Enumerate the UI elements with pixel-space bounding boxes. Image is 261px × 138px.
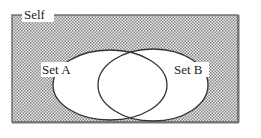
set-b-label: Set B bbox=[174, 62, 203, 77]
universe-label: Self bbox=[24, 7, 46, 22]
set-a-label: Set A bbox=[42, 62, 71, 77]
venn-diagram: Self Set A Set B bbox=[0, 0, 261, 138]
